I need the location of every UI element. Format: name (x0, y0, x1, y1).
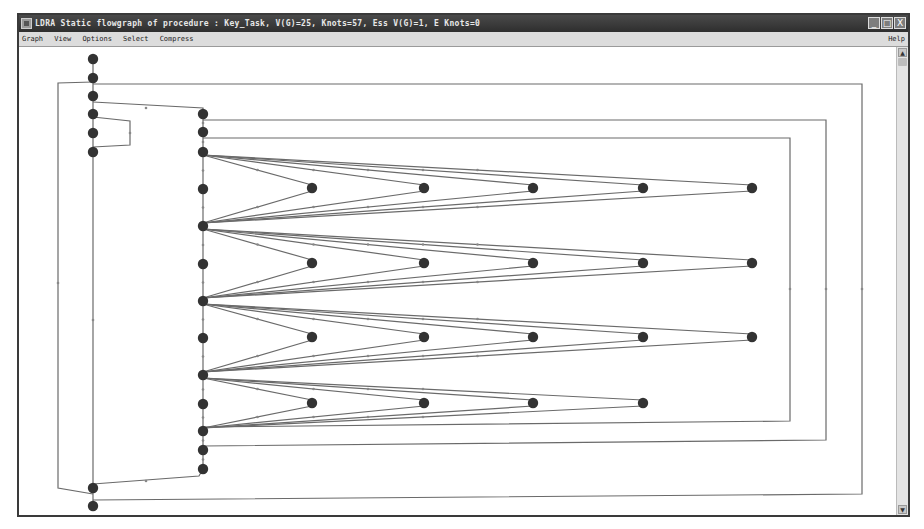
flow-node-m5[interactable] (88, 147, 98, 157)
edge-arrow-marker (367, 388, 370, 391)
flow-node-b12[interactable] (198, 464, 208, 474)
edge-arrow-marker (256, 355, 259, 358)
edge-arrow-marker (476, 206, 479, 209)
edge-arrow-marker (312, 318, 315, 321)
edge-arrow-marker (367, 355, 370, 358)
edge-arrow-marker (202, 388, 205, 391)
left-loop-edge (58, 82, 93, 494)
flow-node-m2[interactable] (88, 91, 98, 101)
flow-node-f1d[interactable] (638, 258, 648, 268)
flow-node-f3a[interactable] (307, 398, 317, 408)
flow-node-f0d[interactable] (638, 183, 648, 193)
edge-arrow-marker (256, 243, 259, 246)
edge-arrow-marker (367, 169, 370, 172)
flow-node-m1[interactable] (88, 73, 98, 83)
flow-node-b5[interactable] (198, 259, 208, 269)
flow-node-b9[interactable] (198, 399, 208, 409)
edge-arrow-marker (312, 416, 315, 419)
edge-arrow-marker (312, 355, 315, 358)
flow-node-f0a[interactable] (307, 183, 317, 193)
edge-arrow-marker (202, 416, 205, 419)
flow-node-f3b[interactable] (419, 398, 429, 408)
edge-arrow-marker (367, 318, 370, 321)
edge-arrow-marker (256, 318, 259, 321)
edge-arrow-marker (312, 206, 315, 209)
flow-node-f1b[interactable] (419, 258, 429, 268)
edge-arrow-marker (92, 319, 95, 322)
edge-arrow-marker (145, 107, 148, 110)
edge-arrow-marker (256, 206, 259, 209)
edge-arrow-marker (422, 416, 425, 419)
edge-arrow-marker (202, 122, 205, 125)
flow-node-f0e[interactable] (747, 183, 757, 193)
flow-node-f2b[interactable] (419, 332, 429, 342)
edge-arrow-marker (202, 244, 205, 247)
flow-node-f0c[interactable] (528, 183, 538, 193)
edge-arrow-marker (422, 169, 425, 172)
edge-arrow-marker (422, 281, 425, 284)
flow-node-m7[interactable] (88, 501, 98, 511)
side-loop-edge (93, 117, 130, 147)
edge-arrow-marker (312, 388, 315, 391)
flow-node-f3d[interactable] (638, 398, 648, 408)
edge-arrow-marker (312, 281, 315, 284)
edge-arrow-marker (422, 318, 425, 321)
merge-edge (93, 469, 203, 484)
edge-arrow-marker (57, 282, 60, 285)
edge-arrow-marker (476, 169, 479, 172)
back-loop-edge (93, 84, 862, 500)
flow-node-b8[interactable] (198, 370, 208, 380)
flow-node-m3[interactable] (88, 109, 98, 119)
flow-node-b1[interactable] (198, 127, 208, 137)
edge-arrow-marker (312, 169, 315, 172)
edge-arrow-marker (202, 355, 205, 358)
flow-node-f1c[interactable] (528, 258, 538, 268)
flow-node-f2c[interactable] (528, 332, 538, 342)
flow-node-b3[interactable] (198, 184, 208, 194)
flow-node-f0b[interactable] (419, 183, 429, 193)
edge-arrow-marker (256, 281, 259, 284)
edge-arrow-marker (202, 318, 205, 321)
flow-node-m4[interactable] (88, 128, 98, 138)
flowgraph (0, 0, 924, 529)
flow-node-f2d[interactable] (638, 332, 648, 342)
edge-arrow-marker (861, 288, 864, 291)
edge-arrow-marker (367, 206, 370, 209)
flow-node-b4[interactable] (198, 221, 208, 231)
edge-arrow-marker (422, 243, 425, 246)
edge-arrow-marker (256, 416, 259, 419)
edge-arrow-marker (422, 355, 425, 358)
flow-node-b2[interactable] (198, 147, 208, 157)
flow-node-b11[interactable] (198, 445, 208, 455)
flow-node-b7[interactable] (198, 333, 208, 343)
edge-arrow-marker (312, 243, 315, 246)
edge-arrow-marker (789, 288, 792, 291)
edge-arrow-marker (256, 169, 259, 172)
edge-arrow-marker (367, 243, 370, 246)
flow-node-f2e[interactable] (747, 332, 757, 342)
edge-arrow-marker (202, 439, 205, 442)
edge-arrow-marker (202, 458, 205, 461)
edge-arrow-marker (422, 206, 425, 209)
flow-node-f1a[interactable] (307, 258, 317, 268)
edge-arrow-marker (422, 388, 425, 391)
edge-arrow-marker (476, 281, 479, 284)
edge-arrow-marker (825, 288, 828, 291)
edge-arrow-marker (476, 355, 479, 358)
edge-arrow-marker (256, 388, 259, 391)
edge-arrow-marker (202, 206, 205, 209)
edge-arrow-marker (476, 243, 479, 246)
edge-arrow-marker (202, 169, 205, 172)
flow-node-f1e[interactable] (747, 258, 757, 268)
branch-edge (93, 102, 203, 114)
edge-arrow-marker (367, 281, 370, 284)
flow-node-f3c[interactable] (528, 398, 538, 408)
flow-node-m6[interactable] (88, 483, 98, 493)
flow-node-m0[interactable] (88, 54, 98, 64)
flow-node-f2a[interactable] (307, 332, 317, 342)
flow-node-b0[interactable] (198, 109, 208, 119)
edge-arrow-marker (367, 416, 370, 419)
flow-node-b10[interactable] (198, 426, 208, 436)
edge-arrow-marker (145, 480, 148, 483)
flow-node-b6[interactable] (198, 296, 208, 306)
